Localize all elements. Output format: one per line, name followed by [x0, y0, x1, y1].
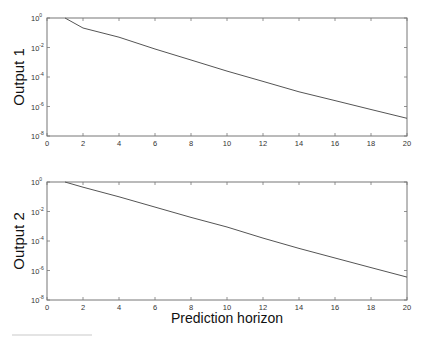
- y-tick-label: 10-8: [31, 130, 44, 141]
- x-tick-label: 20: [403, 139, 411, 148]
- x-tick-label: 4: [117, 139, 121, 148]
- y-tick-label: 100: [31, 12, 42, 23]
- y-tick-label: 10-6: [31, 265, 44, 276]
- x-tick-label: 14: [295, 303, 303, 312]
- figure: 02468101214161820 10010-210-410-610-8 Ou…: [0, 0, 429, 342]
- y-tick-label: 10-6: [31, 101, 44, 112]
- plot-frame: [47, 18, 407, 136]
- x-tick-label: 18: [367, 303, 375, 312]
- x-tick-label: 20: [403, 303, 411, 312]
- y-tick-label: 10-4: [31, 71, 44, 82]
- x-tick-label: 0: [45, 139, 49, 148]
- y-tick-label: 10-2: [31, 42, 44, 53]
- x-tick-label: 16: [331, 139, 339, 148]
- series-line-output-2: [65, 182, 407, 277]
- x-tick-label: 16: [331, 303, 339, 312]
- x-tick-label: 18: [367, 139, 375, 148]
- y-ticks: 10010-210-410-610-8: [31, 12, 407, 141]
- y-ticks: 10010-210-410-610-8: [31, 176, 407, 305]
- y-axis-label: Output 2: [10, 212, 27, 270]
- plot-output-1: 02468101214161820 10010-210-410-610-8 Ou…: [10, 12, 411, 148]
- series-line-output-1: [65, 18, 407, 118]
- x-tick-label: 8: [189, 139, 193, 148]
- plot-frame: [47, 182, 407, 300]
- x-tick-label: 0: [45, 303, 49, 312]
- x-ticks: 02468101214161820: [45, 182, 411, 312]
- x-tick-label: 6: [153, 303, 157, 312]
- y-tick-label: 100: [31, 176, 42, 187]
- x-ticks: 02468101214161820: [45, 18, 411, 148]
- y-tick-label: 10-2: [31, 206, 44, 217]
- x-tick-label: 2: [81, 139, 85, 148]
- y-tick-label: 10-8: [31, 294, 44, 305]
- x-tick-label: 2: [81, 303, 85, 312]
- figure-caption-fragment: [12, 334, 92, 336]
- y-axis-label: Output 1: [10, 48, 27, 106]
- x-tick-label: 10: [223, 139, 231, 148]
- x-axis-label: Prediction horizon: [171, 310, 283, 326]
- y-tick-label: 10-4: [31, 235, 44, 246]
- x-tick-label: 6: [153, 139, 157, 148]
- plot-output-2: 02468101214161820 10010-210-410-610-8 Ou…: [10, 176, 411, 312]
- x-tick-label: 14: [295, 139, 303, 148]
- x-tick-label: 4: [117, 303, 121, 312]
- x-tick-label: 12: [259, 139, 267, 148]
